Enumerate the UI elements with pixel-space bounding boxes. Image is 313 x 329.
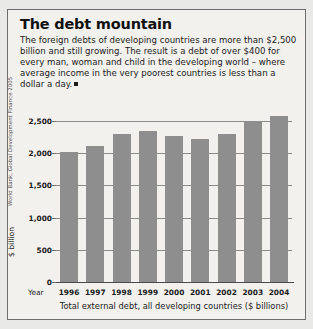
plot-area: 05001,0001,5002,0002,500	[56, 108, 292, 282]
intro-text: The foreign debts of developing countrie…	[20, 35, 296, 89]
y-tick-label: 1,000	[29, 213, 52, 222]
x-tick-label: 2000	[161, 288, 187, 297]
y-tick-label: 1,500	[29, 181, 52, 190]
intro-paragraph: The foreign debts of developing countrie…	[20, 35, 298, 90]
bar	[139, 131, 157, 282]
screenshot-page: The debt mountain The foreign debts of d…	[0, 0, 313, 329]
x-tick-label: 2003	[240, 288, 266, 297]
bar-slot	[135, 108, 161, 282]
x-tick-label: 1999	[135, 288, 161, 297]
bar	[165, 136, 183, 282]
x-tick-label: 2002	[214, 288, 240, 297]
page-title: The debt mountain	[20, 16, 172, 32]
x-tick-label: 1996	[56, 288, 82, 297]
source-credit: World Bank, Global Development Finance 2…	[7, 77, 13, 206]
x-tick-label: 2004	[266, 288, 292, 297]
bar-slot	[240, 108, 266, 282]
y-tick-label: 2,500	[29, 116, 52, 125]
bar-slot	[56, 108, 82, 282]
chart-caption: Total external debt, all developing coun…	[56, 301, 292, 311]
bar	[244, 121, 262, 282]
bar	[191, 139, 209, 282]
y-tick-label: 500	[37, 245, 52, 254]
bar	[86, 146, 104, 282]
bar-slot	[161, 108, 187, 282]
x-axis-label: Year	[28, 288, 44, 297]
bar	[218, 134, 236, 282]
bar-chart: $ billion Year 05001,0001,5002,0002,500 …	[20, 98, 296, 316]
x-tick-label: 2001	[187, 288, 213, 297]
bar-slot	[109, 108, 135, 282]
x-tick-labels: 199619971998199920002001200220032004	[56, 288, 292, 297]
bar	[60, 152, 78, 282]
bar-slot	[187, 108, 213, 282]
bar	[270, 116, 288, 282]
bar-slot	[214, 108, 240, 282]
axis-baseline	[56, 282, 294, 283]
chart-panel: The debt mountain The foreign debts of d…	[7, 9, 306, 320]
y-axis-label: $ billion	[7, 227, 16, 257]
x-tick-label: 1997	[82, 288, 108, 297]
bar-series	[56, 108, 292, 282]
x-tick-label: 1998	[109, 288, 135, 297]
bar-slot	[82, 108, 108, 282]
y-tick-label: 2,000	[29, 149, 52, 158]
bar	[113, 134, 131, 282]
bar-slot	[266, 108, 292, 282]
end-marker-icon	[74, 82, 78, 86]
